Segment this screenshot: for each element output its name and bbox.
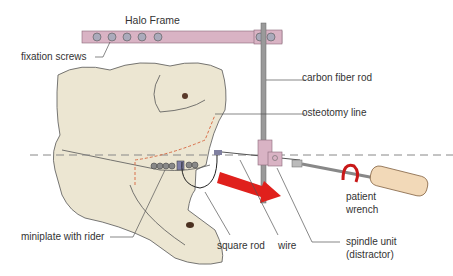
halo-frame-title: Halo Frame <box>125 14 180 26</box>
label-square-rod: square rod <box>217 240 265 252</box>
label-fixation-screws: fixation screws <box>21 51 87 63</box>
label-carbon-fiber-rod: carbon fiber rod <box>302 72 372 84</box>
label-patient: patient <box>346 191 376 203</box>
label-wire: wire <box>278 240 296 252</box>
label-wrench: wrench <box>346 204 378 216</box>
label-spindle-unit: spindle unit <box>346 236 397 248</box>
label-osteotomy-line: osteotomy line <box>302 107 366 119</box>
label-distractor: (distractor) <box>346 249 394 261</box>
label-miniplate: miniplate with rider <box>21 231 104 243</box>
